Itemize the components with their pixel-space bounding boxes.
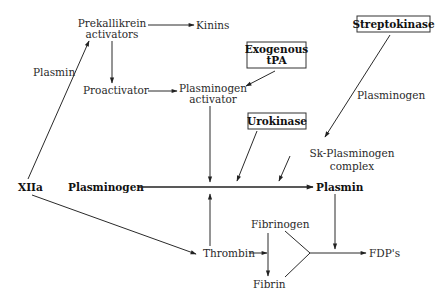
node-streptokinase: Streptokinase [352, 16, 434, 32]
node-urokinase: Urokinase [247, 113, 307, 129]
arrow-complex-to-main [279, 156, 290, 181]
node-plasminogen: Plasminogen [68, 181, 144, 193]
node-fdps: FDP's [369, 247, 400, 259]
edge-label-plasmin: Plasmin [33, 66, 75, 78]
convergence-fibrinogen-fibrin [285, 231, 310, 277]
node-thrombin: Thrombin [203, 247, 255, 259]
sk-plasminogen-line2: complex [330, 160, 374, 172]
node-xiia: XIIa [18, 181, 43, 193]
sk-plasminogen-line1: Sk-Plasminogen [309, 147, 394, 159]
activators-label: activators [86, 28, 139, 40]
node-fibrin: Fibrin [253, 278, 286, 290]
node-exogenous-tpa: Exogenous tPA [245, 42, 309, 68]
arrow-xiia-to-thrombin [32, 195, 196, 254]
arrow-streptokinase-to-complex [325, 35, 390, 137]
plasminogen-activator-line2: activator [189, 93, 237, 105]
urokinase-label: Urokinase [247, 115, 307, 127]
tpa-label: tPA [266, 54, 287, 66]
arrow-urokinase-to-main [237, 131, 257, 181]
node-prekallikrein-activators: Prekallikrein activators [78, 17, 147, 40]
arrow-tpa-to-plasminogen-activator [246, 71, 275, 86]
streptokinase-label: Streptokinase [352, 18, 434, 30]
node-proactivator: Proactivator [83, 84, 150, 96]
arrow-xiia-to-prekallikrein [28, 41, 89, 179]
node-kinins: Kinins [196, 19, 229, 31]
node-fibrinogen: Fibrinogen [251, 218, 310, 230]
node-plasmin: Plasmin [316, 181, 364, 193]
node-sk-plasminogen-complex: Sk-Plasminogen complex [309, 147, 394, 172]
fibrinolysis-diagram: Prekallikrein activators Kinins Proactiv… [0, 0, 446, 304]
node-plasminogen-activator: Plasminogen activator [179, 82, 247, 105]
edge-label-plasminogen: Plasminogen [357, 89, 425, 101]
